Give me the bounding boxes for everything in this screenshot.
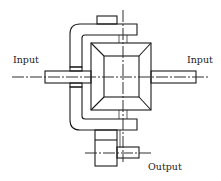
- differential-diagram: Input Input Output: [0, 0, 221, 181]
- output-gear: [95, 130, 120, 166]
- input-left-label: Input: [13, 54, 39, 65]
- top-boss: [97, 16, 117, 24]
- output-shaft: [117, 147, 139, 158]
- bevel-gear-box: [91, 43, 151, 110]
- output-label: Output: [148, 161, 182, 172]
- input-right-label: Input: [187, 54, 213, 65]
